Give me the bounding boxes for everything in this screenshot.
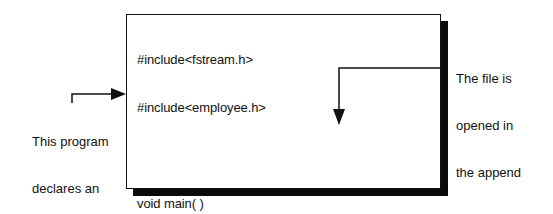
code-line-blank (137, 148, 394, 164)
annotation-left: This program declares an object of the e… (32, 103, 117, 214)
annotation-left-line: declares an (32, 181, 117, 197)
code-line-include-fstream: #include<fstream.h> (137, 52, 394, 68)
annotation-right-line: mode using (456, 212, 523, 214)
left-callout-arrow-icon (72, 88, 126, 103)
code-line-include-employee: #include<employee.h> (137, 100, 394, 116)
annotation-right-line: The file is (456, 71, 523, 87)
annotation-right: The file is opened in the append mode us… (456, 40, 523, 214)
annotation-left-line: This program (32, 134, 117, 150)
code-box: #include<fstream.h> #include<employee.h>… (126, 14, 441, 189)
annotation-right-line: the append (456, 165, 523, 181)
annotation-right-line: opened in (456, 118, 523, 134)
code-line-main: void main( ) (137, 196, 394, 212)
code-listing: #include<fstream.h> #include<employee.h>… (137, 20, 394, 214)
